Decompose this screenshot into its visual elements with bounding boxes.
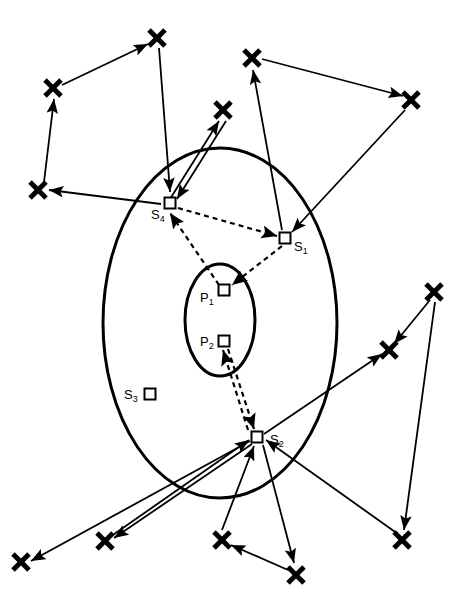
cross-marker-x-left-mid bbox=[30, 182, 46, 198]
node-label-base: S bbox=[294, 239, 303, 254]
cross-marker-x-right-mid bbox=[381, 342, 397, 358]
network-diagram: S4S1P1P2S3S2 bbox=[0, 0, 461, 613]
node-label-base: S bbox=[270, 432, 279, 447]
node-label-S3: S3 bbox=[124, 387, 138, 404]
solid-edge-S1-to-x-top-right-inner bbox=[253, 70, 282, 230]
node-label-P2: P2 bbox=[200, 334, 214, 351]
node-label-subscript: 2 bbox=[279, 439, 284, 449]
solid-edge-S2-to-x-right-mid bbox=[264, 354, 382, 434]
node-label-base: S bbox=[124, 387, 133, 402]
node-label-base: S bbox=[151, 207, 160, 222]
solid-edge-x-bottom-center-low-to-x-bottom-center bbox=[231, 545, 288, 570]
node-label-subscript: 1 bbox=[209, 297, 214, 307]
node-square-S4[interactable] bbox=[165, 198, 176, 209]
diagram-canvas: S4S1P1P2S3S2 bbox=[0, 0, 461, 613]
node-label-base: P bbox=[200, 290, 209, 305]
solid-edge-x-bottom-center-to-S2 bbox=[222, 446, 254, 530]
node-label-S2: S2 bbox=[270, 432, 284, 449]
cross-marker-x-top-right-inner bbox=[244, 50, 260, 66]
node-square-P1[interactable] bbox=[219, 285, 230, 296]
node-square-P2[interactable] bbox=[219, 336, 230, 347]
solid-edge-x-top-right-outer-to-S1 bbox=[292, 110, 405, 232]
cross-marker-x-bottom-left-inner bbox=[97, 533, 113, 549]
node-label-subscript: 4 bbox=[160, 214, 165, 224]
solid-edge-x-right-upper-to-x-right-mid bbox=[394, 300, 430, 344]
solid-edge-S2-to-x-bottom-left-inner bbox=[114, 444, 252, 538]
solid-edges-layer bbox=[31, 44, 435, 570]
solid-edge-x-bottom-left-inner-to-S2 bbox=[110, 440, 249, 537]
dashed-edge-S4-to-S1 bbox=[178, 208, 277, 236]
cross-marker-x-top-right-outer bbox=[403, 92, 419, 108]
node-square-S3[interactable] bbox=[145, 389, 156, 400]
dashed-edge-P2-to-S2 bbox=[228, 349, 254, 429]
cross-marker-x-left-upper bbox=[45, 80, 61, 96]
node-label-S1: S1 bbox=[294, 239, 308, 256]
inner-ellipse bbox=[185, 264, 255, 376]
dashed-edge-P1-to-S4 bbox=[170, 213, 219, 285]
node-label-base: P bbox=[200, 334, 209, 349]
node-label-subscript: 3 bbox=[133, 394, 138, 404]
solid-edge-x-top-right-inner-to-x-top-right-outer bbox=[262, 59, 403, 96]
solid-edge-x-top-center-to-S4 bbox=[177, 121, 226, 199]
node-label-subscript: 2 bbox=[209, 341, 214, 351]
cross-marker-x-bottom-center bbox=[214, 532, 230, 548]
cross-marker-x-right-upper bbox=[426, 284, 442, 300]
cross-marker-x-bottom-left-outer bbox=[13, 554, 29, 570]
solid-edge-x-left-mid-to-x-left-upper bbox=[44, 99, 54, 182]
cross-marker-x-top-left-upper bbox=[149, 30, 165, 46]
node-label-P1: P1 bbox=[200, 290, 214, 307]
solid-edge-x-left-upper-to-x-top-left-upper bbox=[62, 44, 148, 85]
cross-marker-x-bottom-center-low bbox=[288, 567, 304, 583]
node-label-subscript: 1 bbox=[303, 246, 308, 256]
cross-marker-x-right-lower bbox=[394, 532, 410, 548]
crosses-layer bbox=[13, 30, 442, 583]
node-label-S4: S4 bbox=[151, 207, 165, 224]
node-square-S2[interactable] bbox=[252, 432, 263, 443]
solid-edge-x-right-lower-to-S2 bbox=[266, 440, 398, 534]
node-square-S1[interactable] bbox=[280, 233, 291, 244]
cross-marker-x-top-center bbox=[215, 102, 231, 118]
dashed-edge-S1-to-P1 bbox=[232, 246, 282, 285]
dashed-edges-layer bbox=[170, 208, 282, 430]
solid-edge-x-right-upper-to-x-right-lower bbox=[404, 302, 435, 530]
